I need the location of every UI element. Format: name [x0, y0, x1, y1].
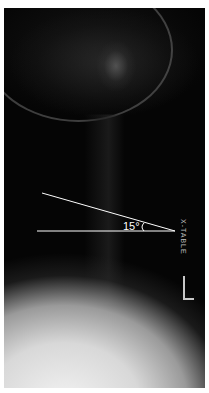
- angle-arc-icon: [142, 223, 144, 231]
- angle-line-upper: [42, 193, 175, 231]
- angle-measurement-overlay: 15°: [0, 0, 209, 393]
- angle-value: 15°: [123, 220, 140, 232]
